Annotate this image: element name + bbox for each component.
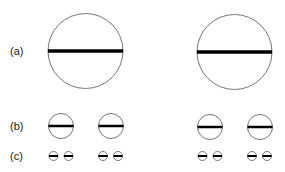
label-b: (b) (10, 120, 23, 132)
barred-circle-icon (99, 114, 124, 139)
row-b (49, 114, 273, 140)
row-c (49, 152, 272, 161)
label-a: (a) (10, 45, 23, 57)
barred-circle-icon (197, 15, 272, 90)
barred-circle-icon (49, 152, 58, 161)
label-c: (c) (10, 150, 23, 162)
barred-circle-icon (248, 115, 273, 140)
barred-circle-icon (213, 152, 222, 161)
barred-circle-icon (64, 152, 73, 161)
row-a (48, 14, 272, 90)
barred-circle-icon (48, 14, 123, 89)
circle-groups (48, 14, 273, 161)
barred-circle-icon (99, 152, 108, 161)
barred-circle-icon (198, 115, 223, 140)
barred-circle-icon (114, 152, 123, 161)
barred-circle-icon (248, 152, 257, 161)
diagram-canvas: (a) (b) (c) (0, 0, 285, 172)
barred-circle-icon (263, 152, 272, 161)
barred-circle-icon (198, 152, 207, 161)
barred-circle-icon (49, 114, 74, 139)
